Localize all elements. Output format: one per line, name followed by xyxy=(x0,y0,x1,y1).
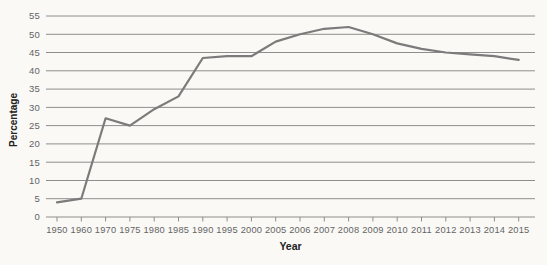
x-tick-label: 1985 xyxy=(168,225,189,235)
x-tick-label: 2005 xyxy=(265,225,286,235)
x-tick-label: 1970 xyxy=(95,225,116,235)
y-tick-label: 20 xyxy=(29,138,40,149)
x-tick-label: 1980 xyxy=(143,225,164,235)
line-chart: 0510152025303540455055195019601970197519… xyxy=(0,0,547,265)
x-tick-label: 2008 xyxy=(338,225,359,235)
x-tick-label: 1960 xyxy=(71,225,92,235)
x-tick-label: 1975 xyxy=(119,225,140,235)
y-tick-label: 0 xyxy=(35,211,40,222)
y-tick-label: 45 xyxy=(29,47,40,58)
x-tick-label: 2007 xyxy=(314,225,335,235)
x-tick-label: 1995 xyxy=(216,225,237,235)
x-tick-label: 1990 xyxy=(192,225,213,235)
y-tick-label: 55 xyxy=(29,10,40,21)
y-tick-label: 25 xyxy=(29,120,40,131)
y-tick-label: 50 xyxy=(29,29,40,40)
x-tick-label: 2015 xyxy=(508,225,529,235)
y-tick-label: 10 xyxy=(29,175,40,186)
x-axis-title: Year xyxy=(46,240,535,252)
x-tick-label: 2013 xyxy=(459,225,480,235)
x-tick-label: 2014 xyxy=(484,225,505,235)
y-tick-label: 30 xyxy=(29,102,40,113)
x-tick-label: 2010 xyxy=(386,225,407,235)
y-tick-label: 15 xyxy=(29,157,40,168)
x-tick-label: 2011 xyxy=(411,225,432,235)
x-tick-label: 2009 xyxy=(362,225,383,235)
y-tick-label: 5 xyxy=(35,193,40,204)
y-axis-title: Percentage xyxy=(8,93,19,147)
x-tick-label: 2000 xyxy=(241,225,262,235)
y-tick-label: 40 xyxy=(29,65,40,76)
chart-canvas: 0510152025303540455055195019601970197519… xyxy=(0,0,547,265)
y-tick-label: 35 xyxy=(29,83,40,94)
data-line xyxy=(57,27,519,202)
x-tick-label: 1950 xyxy=(46,225,67,235)
x-tick-label: 2012 xyxy=(435,225,456,235)
x-tick-label: 2006 xyxy=(289,225,310,235)
